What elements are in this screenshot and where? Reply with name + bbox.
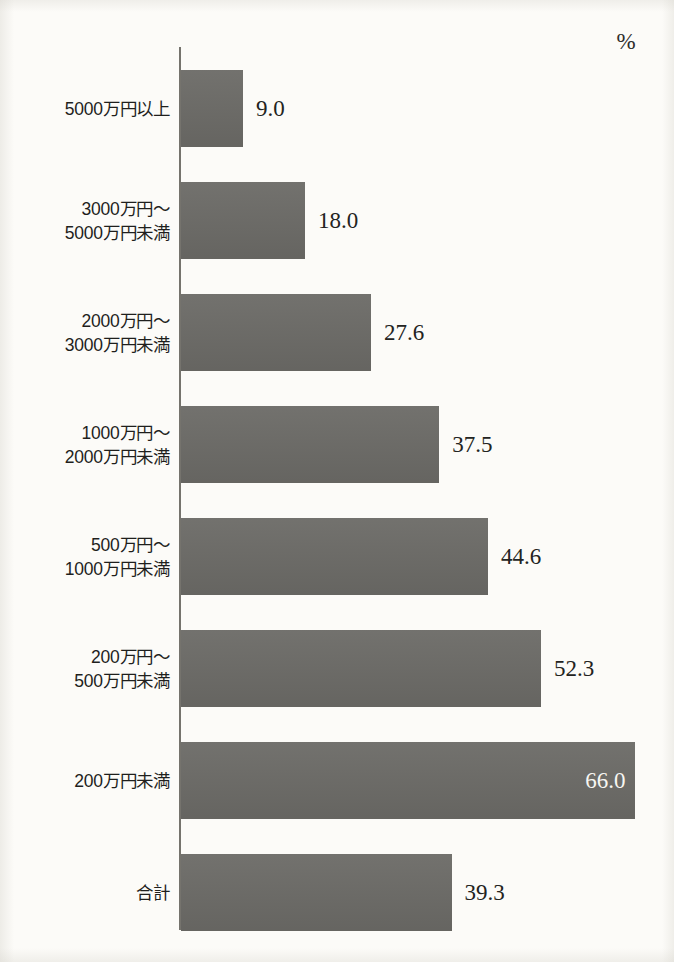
bar — [181, 406, 439, 483]
bar-chart: % 5000万円以上9.03000万円～ 5000万円未満18.02000万円～… — [0, 0, 674, 962]
bar-value-label: 18.0 — [318, 209, 358, 232]
bar-row: 3000万円～ 5000万円未満18.0 — [0, 182, 674, 259]
bar-row: 500万円～ 1000万円未満44.6 — [0, 518, 674, 595]
bar-row: 200万円未満66.0 — [0, 742, 674, 819]
bar-shading — [181, 630, 541, 707]
bar-value-label: 27.6 — [384, 321, 424, 344]
category-label: 合計 — [136, 881, 170, 905]
category-label: 200万円～ 500万円未満 — [74, 645, 170, 693]
bar-shading — [181, 742, 635, 819]
bar-shading — [181, 70, 243, 147]
bar-value-label: 52.3 — [554, 657, 594, 680]
bar — [181, 294, 371, 371]
bar — [181, 182, 305, 259]
bar — [181, 518, 488, 595]
bars-layer: 5000万円以上9.03000万円～ 5000万円未満18.02000万円～ 3… — [0, 0, 674, 962]
category-label: 1000万円～ 2000万円未満 — [65, 421, 170, 469]
bar — [181, 854, 452, 931]
category-label: 2000万円～ 3000万円未満 — [65, 309, 170, 357]
bar-value-label: 39.3 — [465, 881, 505, 904]
bar-shading — [181, 518, 488, 595]
bar-row: 1000万円～ 2000万円未満37.5 — [0, 406, 674, 483]
bar-value-label: 66.0 — [573, 769, 625, 792]
bar-row: 5000万円以上9.0 — [0, 70, 674, 147]
category-label: 500万円～ 1000万円未満 — [65, 533, 170, 581]
bar-value-label: 44.6 — [501, 545, 541, 568]
bar — [181, 70, 243, 147]
bar-shading — [181, 294, 371, 371]
bar-shading — [181, 182, 305, 259]
bar-row: 200万円～ 500万円未満52.3 — [0, 630, 674, 707]
bar-row: 2000万円～ 3000万円未満27.6 — [0, 294, 674, 371]
bar-value-label: 37.5 — [452, 433, 492, 456]
category-label: 5000万円以上 — [65, 97, 170, 121]
bar-shading — [181, 406, 439, 483]
bar-shading — [181, 854, 452, 931]
bar — [181, 742, 635, 819]
bar-row: 合計39.3 — [0, 854, 674, 931]
category-label: 3000万円～ 5000万円未満 — [65, 197, 170, 245]
bar — [181, 630, 541, 707]
bar-value-label: 9.0 — [256, 97, 285, 120]
category-label: 200万円未満 — [74, 769, 170, 793]
